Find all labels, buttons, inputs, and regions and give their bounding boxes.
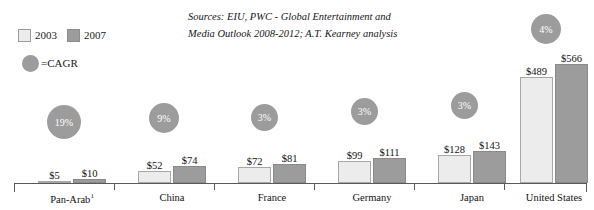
bar-pair: $52$749% (126, 27, 218, 183)
bar-value-label: $10 (82, 168, 98, 180)
bar-pair: $128$1433% (426, 27, 518, 183)
bar-group: $5$1019%Pan-Arab1 (26, 0, 118, 210)
x-axis-tick (14, 183, 15, 192)
bar-2003[interactable]: $5 (38, 181, 71, 183)
bar-value-label: $99 (347, 150, 363, 162)
bar-2003[interactable]: $128 (438, 155, 471, 183)
bar-group: $72$813%France (226, 0, 318, 210)
bar-2007[interactable]: $10 (73, 179, 106, 183)
bar-2003[interactable]: $72 (238, 167, 271, 183)
bar-group: $99$1113%Germany (326, 0, 418, 210)
cagr-bubble[interactable]: 4% (531, 14, 561, 44)
category-label: China (126, 192, 218, 203)
category-label: Pan-Arab1 (26, 192, 118, 205)
cagr-bubble[interactable]: 9% (149, 103, 179, 133)
bar-2007[interactable]: $111 (373, 158, 406, 183)
bar-value-label: $52 (147, 160, 163, 172)
bar-2007[interactable]: $566 (555, 64, 588, 183)
bar-pair: $489$5664% (508, 27, 594, 183)
bar-group: $128$1433%Japan (426, 0, 518, 210)
bar-value-label: $128 (444, 144, 465, 156)
bar-group: $489$5664%United States (508, 0, 594, 210)
bar-2007[interactable]: $143 (473, 151, 506, 183)
bar-value-label: $111 (379, 147, 399, 159)
bar-group: $52$749%China (126, 0, 218, 210)
bar-pair: $72$813% (226, 27, 318, 183)
cagr-bubble[interactable]: 19% (47, 105, 81, 139)
chart-canvas: 2003 2007 =CAGR Sources: EIU, PWC - Glob… (0, 0, 594, 210)
category-label: France (226, 192, 318, 203)
cagr-bubble[interactable]: 3% (451, 92, 478, 119)
category-label: Germany (326, 192, 418, 203)
plot-area: $5$1019%Pan-Arab1$52$749%China$72$813%Fr… (14, 0, 586, 210)
bar-2003[interactable]: $99 (338, 161, 371, 183)
bar-value-label: $74 (182, 155, 198, 167)
bar-value-label: $81 (282, 153, 298, 165)
category-label: United States (508, 192, 594, 203)
bar-2003[interactable]: $489 (520, 77, 553, 183)
bar-2007[interactable]: $81 (273, 164, 306, 183)
bar-2007[interactable]: $74 (173, 166, 206, 183)
bar-value-label: $489 (526, 66, 547, 78)
cagr-bubble[interactable]: 3% (351, 98, 378, 125)
footnote-marker: 1 (90, 192, 94, 200)
bar-pair: $5$1019% (26, 27, 118, 183)
bar-value-label: $5 (49, 170, 60, 182)
bar-pair: $99$1113% (326, 27, 418, 183)
bar-value-label: $566 (561, 53, 582, 65)
cagr-bubble[interactable]: 3% (251, 104, 278, 131)
category-label: Japan (426, 192, 518, 203)
bar-2003[interactable]: $52 (138, 171, 171, 183)
bar-value-label: $143 (479, 140, 500, 152)
bar-value-label: $72 (247, 156, 263, 168)
